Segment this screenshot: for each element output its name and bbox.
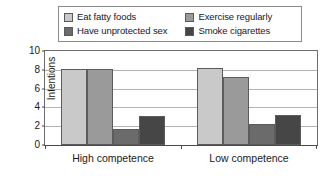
legend-swatch-icon xyxy=(64,13,73,22)
y-tick-label: 10 xyxy=(29,46,40,56)
chart-plot-area: Intentions 0246810 High competenceLow co… xyxy=(44,50,318,146)
x-tick-mark xyxy=(45,145,46,149)
legend-row: Eat fatty foods Exercise regularly xyxy=(64,10,297,24)
y-tick-mark xyxy=(42,69,45,70)
y-tick-mark xyxy=(42,107,45,108)
legend-label: Eat fatty foods xyxy=(77,12,136,22)
legend-entry-have-unprotected-sex: Have unprotected sex xyxy=(64,26,185,36)
bar xyxy=(87,69,113,145)
y-tick-label: 6 xyxy=(34,84,40,94)
y-tick-label: 4 xyxy=(34,102,40,112)
x-tick-mark xyxy=(181,145,182,149)
y-tick-label: 0 xyxy=(34,140,40,150)
x-tick-mark xyxy=(316,145,317,149)
legend-entry-eat-fatty-foods: Eat fatty foods xyxy=(64,12,185,22)
legend-swatch-icon xyxy=(64,27,73,36)
legend-label: Exercise regularly xyxy=(198,12,272,22)
bar xyxy=(249,124,275,145)
y-tick-label: 8 xyxy=(34,65,40,75)
y-tick-mark xyxy=(42,88,45,89)
y-tick-mark xyxy=(42,51,45,52)
bar xyxy=(275,115,301,145)
legend-entry-smoke-cigarettes: Smoke cigarettes xyxy=(185,26,297,36)
bar xyxy=(197,68,223,145)
chart-legend: Eat fatty foods Exercise regularly Have … xyxy=(58,6,302,42)
legend-label: Have unprotected sex xyxy=(77,26,167,36)
legend-label: Smoke cigarettes xyxy=(198,26,270,36)
y-axis-title: Intentions xyxy=(46,42,57,116)
bar xyxy=(113,129,139,145)
legend-row: Have unprotected sex Smoke cigarettes xyxy=(64,24,297,38)
y-tick-label: 2 xyxy=(34,121,40,131)
x-category-label: High competence xyxy=(72,152,154,164)
legend-swatch-icon xyxy=(185,27,194,36)
legend-entry-exercise-regularly: Exercise regularly xyxy=(185,12,297,22)
bar xyxy=(61,69,87,145)
legend-swatch-icon xyxy=(185,13,194,22)
x-category-label: Low competence xyxy=(209,152,288,164)
bar xyxy=(139,116,165,145)
bar xyxy=(223,77,249,145)
y-tick-mark xyxy=(42,126,45,127)
